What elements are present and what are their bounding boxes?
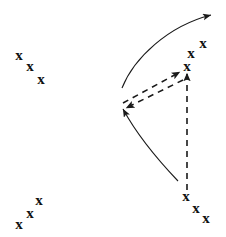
x-marker: x bbox=[192, 201, 200, 216]
x-marker: x bbox=[187, 46, 195, 61]
x-marker: x bbox=[26, 206, 34, 221]
x-marker: x bbox=[183, 59, 191, 74]
x-marker: x bbox=[182, 189, 190, 204]
dashed-arrow-up-right bbox=[123, 72, 180, 103]
x-marker: x bbox=[37, 72, 45, 87]
diagram-canvas: x x x x x x x x x x x x bbox=[0, 0, 226, 237]
x-marker: x bbox=[15, 48, 23, 63]
lower-solid-curve-arrow bbox=[123, 109, 178, 181]
dashed-arrow-down-left bbox=[126, 80, 183, 108]
x-marker: x bbox=[199, 36, 207, 51]
x-marker: x bbox=[26, 59, 34, 74]
upper-solid-curve-arrow bbox=[122, 15, 211, 88]
x-marker: x bbox=[35, 193, 43, 208]
x-marker: x bbox=[202, 211, 210, 226]
x-marker: x bbox=[15, 217, 23, 232]
